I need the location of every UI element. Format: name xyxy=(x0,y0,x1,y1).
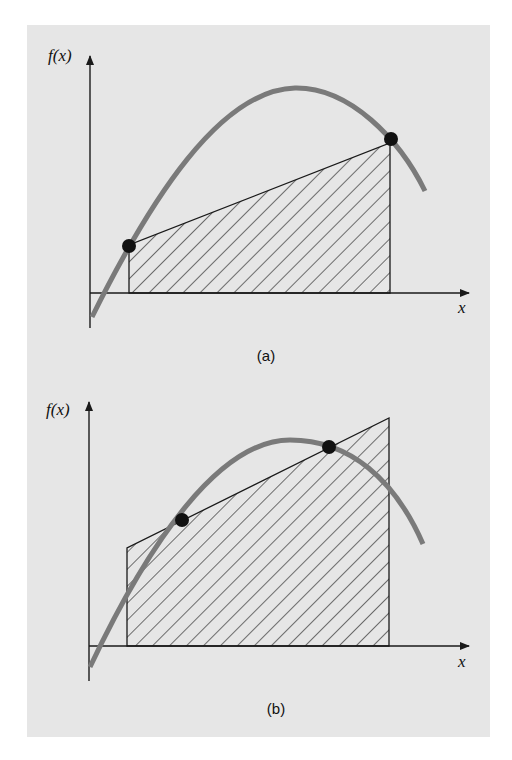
y-axis-label-a: f(x) xyxy=(48,46,72,65)
y-axis-label-b: f(x) xyxy=(46,400,70,419)
x-axis-label-a: x xyxy=(457,298,466,317)
point-marker-b-left xyxy=(175,513,189,527)
caption-b: (b) xyxy=(267,700,285,717)
panel-a: f(x) x (a) xyxy=(48,46,469,364)
x-axis-label-b: x xyxy=(457,652,466,671)
point-marker-a-right xyxy=(384,132,398,146)
caption-a: (a) xyxy=(257,347,275,364)
point-marker-b-right xyxy=(322,440,336,454)
panel-b: f(x) x (b) xyxy=(46,400,469,717)
figure-canvas: f(x) x (a) f(x) x (b) xyxy=(0,0,512,760)
point-marker-a-left xyxy=(122,239,136,253)
trapezoid-area-a xyxy=(129,143,390,293)
